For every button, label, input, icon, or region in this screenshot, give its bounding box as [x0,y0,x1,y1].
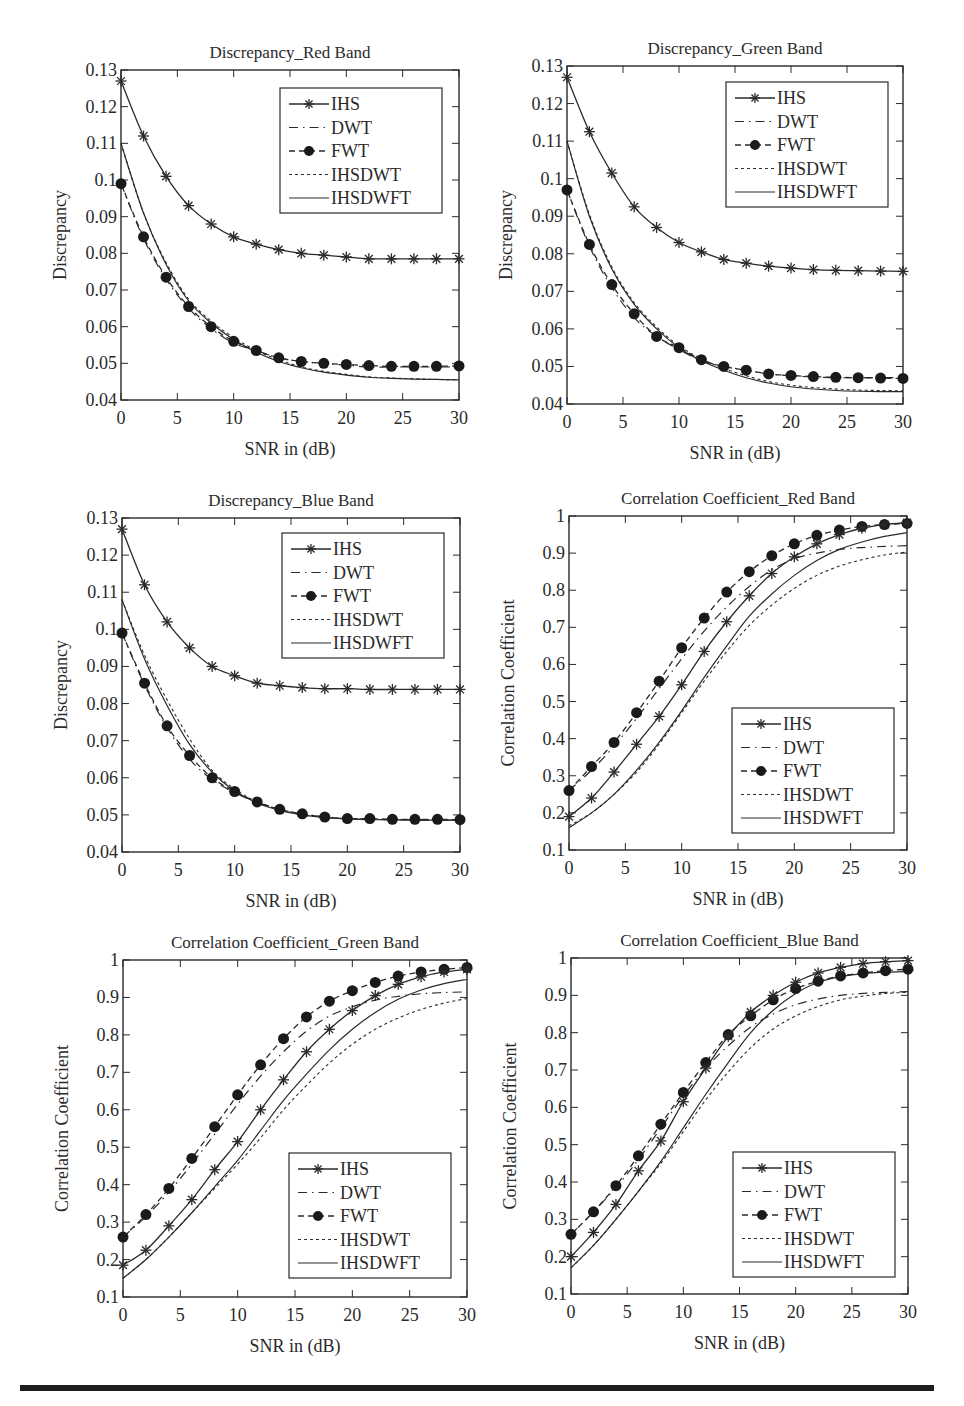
y-tick-label: 0.13 [87,508,119,528]
asterisk-marker-icon [251,239,262,250]
asterisk-marker-icon [207,661,218,672]
x-tick-label: 5 [621,858,630,878]
y-tick-label: 0.1 [545,1284,568,1304]
y-tick-label: 0.6 [543,654,566,674]
legend-label: IHSDWFT [331,188,411,208]
y-tick-label: 0.11 [532,131,563,151]
filled-circle-marker-icon [297,808,308,819]
filled-circle-marker-icon [721,587,732,598]
series-fwt [562,184,909,384]
asterisk-marker-icon [301,1046,312,1057]
asterisk-marker-icon [161,171,172,182]
legend: IHSDWTFWTIHSDWTIHSDWFT [282,533,444,658]
filled-circle-marker-icon [140,1209,151,1220]
legend-label: IHS [333,539,362,559]
asterisk-marker-icon [296,248,307,259]
y-tick-label: 0.4 [545,1172,568,1192]
filled-circle-marker-icon [386,361,397,372]
chart-canvas: Discrepancy_Red Band051015202530SNR in (… [0,0,964,1406]
filled-circle-marker-icon [699,613,710,624]
filled-circle-marker-icon [313,1211,323,1221]
chart-cc_blue: Correlation Coefficient_Blue Band0510152… [500,931,917,1354]
asterisk-marker-icon [432,684,443,695]
asterisk-marker-icon [232,1136,243,1147]
asterisk-marker-icon [117,524,128,535]
x-tick-label: 0 [563,412,572,432]
legend-label: FWT [777,135,815,155]
x-tick-label: 15 [729,858,747,878]
filled-circle-marker-icon [324,996,335,1007]
filled-circle-marker-icon [184,750,195,761]
filled-circle-marker-icon [209,1121,220,1132]
y-tick-label: 0.04 [86,390,118,410]
x-tick-label: 20 [782,412,800,432]
filled-circle-marker-icon [766,550,777,561]
asterisk-marker-icon [363,253,374,264]
y-tick-label: 0.05 [87,805,119,825]
legend-label: IHSDWFT [777,182,857,202]
y-tick-label: 0.1 [541,169,564,189]
filled-circle-marker-icon [408,361,419,372]
x-tick-label: 15 [726,412,744,432]
y-tick-label: 0.04 [87,842,119,862]
asterisk-marker-icon [808,264,819,275]
x-tick-label: 5 [619,412,628,432]
filled-circle-marker-icon [606,279,617,290]
legend-label: FWT [784,1205,822,1225]
filled-circle-marker-icon [304,146,314,156]
filled-circle-marker-icon [432,814,443,825]
x-tick-label: 30 [450,408,468,428]
y-tick-label: 0.4 [543,729,566,749]
y-tick-label: 0.12 [86,97,118,117]
asterisk-marker-icon [830,265,841,276]
y-tick-label: 1 [110,950,119,970]
y-tick-label: 0.06 [87,768,119,788]
filled-circle-marker-icon [756,766,766,776]
x-tick-label: 10 [226,860,244,880]
filled-circle-marker-icon [830,372,841,383]
y-tick-label: 0.12 [532,94,564,114]
legend-label: IHS [784,1158,813,1178]
filled-circle-marker-icon [207,772,218,783]
y-tick-label: 0.8 [97,1025,120,1045]
filled-circle-marker-icon [318,358,329,369]
filled-circle-marker-icon [875,373,886,384]
x-axis-label: SNR in (dB) [694,1333,785,1354]
filled-circle-marker-icon [206,321,217,332]
y-tick-label: 0.3 [97,1212,120,1232]
legend-label: FWT [783,761,821,781]
y-tick-label: 0.04 [532,394,564,414]
asterisk-marker-icon [252,678,263,689]
x-tick-label: 15 [282,860,300,880]
filled-circle-marker-icon [633,1150,644,1161]
x-tick-label: 20 [343,1305,361,1325]
filled-circle-marker-icon [763,368,774,379]
y-axis-label: Discrepancy [51,640,71,730]
asterisk-marker-icon [319,683,330,694]
legend-label: IHSDWT [784,1229,854,1249]
asterisk-marker-icon [439,966,450,977]
chart-title: Discrepancy_Red Band [210,43,371,62]
x-tick-label: 30 [894,412,912,432]
filled-circle-marker-icon [586,761,597,772]
legend-label: IHSDWT [783,785,853,805]
asterisk-marker-icon [454,253,465,264]
asterisk-marker-icon [586,793,597,804]
filled-circle-marker-icon [588,1206,599,1217]
x-tick-label: 0 [118,860,127,880]
asterisk-marker-icon [139,579,150,590]
legend-label: FWT [340,1206,378,1226]
y-tick-label: 0.9 [543,543,566,563]
y-tick-label: 0.6 [97,1100,120,1120]
filled-circle-marker-icon [347,985,358,996]
filled-circle-marker-icon [629,308,640,319]
asterisk-marker-icon [766,568,777,579]
filled-circle-marker-icon [255,1059,266,1070]
y-tick-label: 0.1 [96,619,119,639]
legend: IHSDWTFWTIHSDWTIHSDWFT [733,1152,895,1277]
filled-circle-marker-icon [676,642,687,653]
legend-label: IHSDWFT [333,633,413,653]
figure-grid: Discrepancy_Red Band051015202530SNR in (… [0,0,964,1406]
x-tick-label: 0 [565,858,574,878]
y-tick-label: 0.11 [86,133,117,153]
